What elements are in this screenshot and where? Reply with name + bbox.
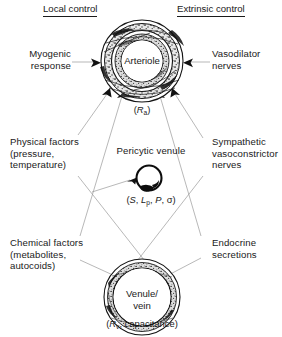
header-extrinsic-control: Extrinsic control [177,3,245,17]
param-arteriole-resistance: (Ra) [112,104,172,116]
param-pericytic-venule: (S, Lp, P, σ) [106,194,196,206]
label-chemical-factors: Chemical factors (metabolites, autocoids… [10,237,105,272]
p-paren-close: ) [172,194,175,205]
header-local-control: Local control [43,3,97,17]
param-subscript-a: a [144,109,148,116]
label-endocrine-secretions: Endocrine secretions [212,237,282,260]
v-subscript-v: v [116,323,119,330]
v-suffix-capacitance: , capacitance) [119,318,177,329]
label-venule-vein: Venule/ vein [112,288,172,311]
label-arteriole: Arteriole [107,55,177,67]
label-physical-factors: Physical factors (pressure, temperature) [10,136,105,171]
param-venule-capacitance: (Rv, capacitance) [86,318,198,330]
p-sub-p: p [146,199,150,206]
label-sympathetic-vasoconstrictor-nerves: Sympathetic vasoconstrictor nerves [212,136,282,171]
pericytic-venule-vessel [137,166,162,192]
vascular-control-diagram: Local control Extrinsic control Myogenic… [0,0,282,337]
label-pericytic-venule: Pericytic venule [96,145,206,157]
label-vasodilator-nerves: Vasodilator nerves [212,48,282,71]
label-myogenic-response: Myogenic response [0,48,71,71]
param-close-paren: ) [147,104,150,115]
param-symbol-r: R [137,104,144,115]
